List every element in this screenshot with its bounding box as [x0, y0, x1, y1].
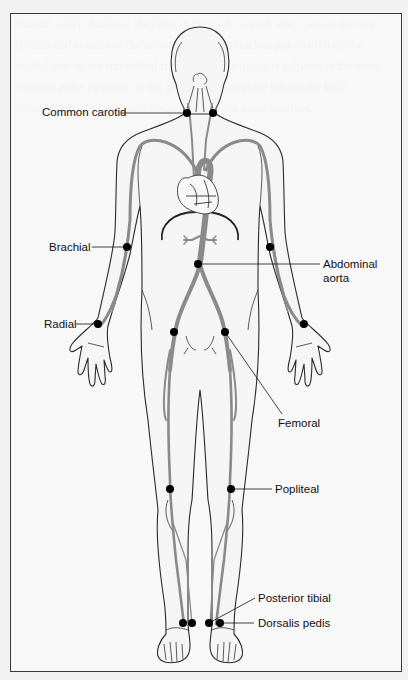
- pulse-dot-abdominal-aorta: [194, 260, 202, 268]
- pulse-dot-radial-right: [300, 320, 308, 328]
- pulse-dot-foot-2: [188, 619, 196, 627]
- body-outline: [70, 27, 330, 663]
- pulse-dot-femoral-left: [170, 328, 178, 336]
- label-abdominal-aorta-line1: Abdominal: [323, 258, 377, 271]
- pulse-dot-femoral-right: [221, 328, 229, 336]
- label-posterior-tibial: Posterior tibial: [258, 592, 331, 605]
- pulse-dot-brachial-left: [123, 243, 131, 251]
- pulse-dot-carotid-left: [183, 109, 191, 117]
- pulse-dot-popliteal-right: [227, 485, 235, 493]
- label-brachial: Brachial: [49, 241, 91, 254]
- label-abdominal-aorta-line2: aorta: [323, 272, 349, 285]
- anatomy-diagram: [0, 0, 408, 680]
- label-popliteal: Popliteal: [275, 483, 319, 496]
- label-dorsalis-pedis: Dorsalis pedis: [258, 617, 330, 630]
- pulse-dot-radial-left: [94, 320, 102, 328]
- pulse-dot-foot-1: [179, 619, 187, 627]
- pulse-dot-brachial-right: [266, 243, 274, 251]
- pulse-dot-popliteal-left: [166, 485, 174, 493]
- pulse-dot-foot-4: [216, 619, 224, 627]
- pulse-dot-foot-3: [205, 619, 213, 627]
- label-radial: Radial: [44, 318, 77, 331]
- pulse-dot-carotid-right: [209, 109, 217, 117]
- label-femoral: Femoral: [278, 417, 320, 430]
- label-common-carotid: Common carotid: [42, 106, 126, 119]
